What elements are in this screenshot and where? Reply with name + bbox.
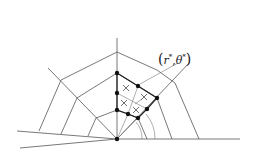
query-point-label: (r*,θ*): [158, 51, 191, 67]
sample-cross-3: [121, 100, 127, 106]
upper-left-diagonal-ray: [48, 68, 117, 139]
polar-grid-diagram: (r*,θ*): [0, 0, 258, 155]
node-top: [115, 71, 119, 75]
lower-left-ray-2: [20, 139, 117, 148]
sample-cross-1: [123, 85, 129, 91]
node-upper-right: [136, 84, 140, 88]
node-right: [155, 96, 159, 100]
diagram-canvas: (r*,θ*): [0, 0, 258, 155]
lower-left-ray-1: [17, 131, 117, 139]
node-lower: [136, 116, 140, 120]
node-bottom: [115, 108, 119, 112]
node-lower-right: [145, 107, 149, 111]
angle-arc-outer: [146, 114, 155, 139]
sub-ray-1: [117, 114, 128, 139]
sub-ray-2: [117, 118, 138, 139]
node-lower-left: [126, 112, 130, 116]
sample-cross-2: [141, 94, 147, 100]
origin-node: [115, 137, 119, 141]
sample-cross-4: [133, 107, 139, 113]
node-mid: [115, 91, 119, 95]
